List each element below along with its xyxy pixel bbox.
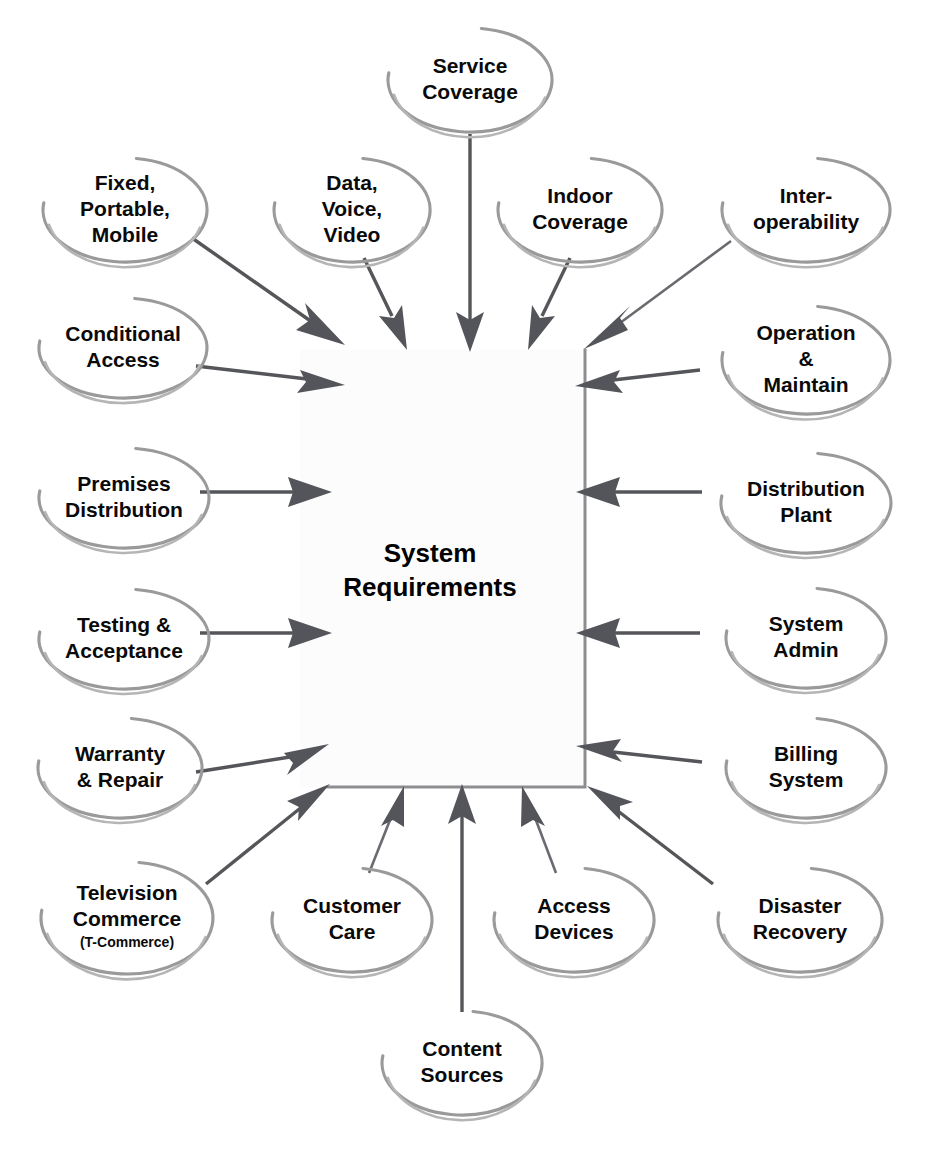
balloon-label-line: Maintain bbox=[763, 373, 848, 396]
balloon-node-conditional-access[interactable]: ConditionalAccess bbox=[39, 299, 207, 404]
connector-television-commerce bbox=[206, 784, 330, 884]
system-requirements-diagram: ServiceCoverageFixed,Portable,MobileData… bbox=[0, 0, 931, 1151]
balloon-node-customer-care[interactable]: CustomerCare bbox=[272, 869, 432, 978]
connector-data-voice-video bbox=[364, 258, 407, 350]
balloon-label-line: Inter- bbox=[780, 184, 833, 207]
balloon-node-operation-maintain[interactable]: Operation&Maintain bbox=[722, 307, 890, 420]
balloon-node-premises-distribution[interactable]: PremisesDistribution bbox=[39, 449, 209, 553]
connector-operation-maintain bbox=[575, 370, 700, 393]
balloon-node-disaster-recovery[interactable]: DisasterRecovery bbox=[718, 869, 882, 978]
balloon-label-line: Mobile bbox=[92, 223, 159, 246]
diagram-canvas: ServiceCoverageFixed,Portable,MobileData… bbox=[0, 0, 931, 1151]
balloon-sublabel: (T-Commerce) bbox=[80, 934, 174, 950]
balloon-label-line: Portable, bbox=[80, 197, 170, 220]
balloon-node-service-coverage[interactable]: ServiceCoverage bbox=[388, 29, 552, 138]
connector-indoor-coverage bbox=[528, 258, 570, 350]
connector-access-devices bbox=[521, 786, 556, 873]
connector-disaster-recovery bbox=[587, 786, 713, 884]
balloon-node-system-admin[interactable]: SystemAdmin bbox=[726, 589, 886, 693]
balloon-label-line: Indoor bbox=[547, 184, 612, 207]
balloon-label-line: Access bbox=[86, 348, 160, 371]
balloon-label-line: Television bbox=[76, 881, 177, 904]
balloon-label-line: Devices bbox=[534, 920, 613, 943]
center-label-line-2: Requirements bbox=[343, 572, 516, 602]
balloon-label-line: Billing bbox=[774, 742, 838, 765]
balloon-label-line: Disaster bbox=[759, 894, 842, 917]
connector-interoperability bbox=[584, 241, 731, 349]
balloon-label-line: Acceptance bbox=[65, 639, 183, 662]
center-region bbox=[300, 350, 586, 788]
balloon-label-line: Coverage bbox=[422, 80, 518, 103]
center-fill bbox=[300, 350, 586, 788]
balloon-label-line: Recovery bbox=[753, 920, 848, 943]
connector-system-admin bbox=[576, 618, 700, 648]
balloon-node-access-devices[interactable]: AccessDevices bbox=[494, 869, 654, 978]
balloon-node-fixed-portable-mobile[interactable]: Fixed,Portable,Mobile bbox=[43, 159, 207, 268]
balloon-label-line: operability bbox=[753, 210, 860, 233]
balloon-label-line: Admin bbox=[773, 638, 838, 661]
balloon-label-line: Operation bbox=[756, 321, 855, 344]
connector-billing-system bbox=[576, 739, 702, 762]
balloon-node-warranty-repair[interactable]: Warranty& Repair bbox=[38, 719, 202, 824]
balloon-node-television-commerce[interactable]: TelevisionCommerce(T-Commerce) bbox=[41, 863, 213, 980]
balloon-label-line: Plant bbox=[780, 503, 831, 526]
balloon-label-line: Commerce bbox=[73, 907, 182, 930]
balloon-label-line: Content bbox=[422, 1037, 501, 1060]
balloon-label-line: Conditional bbox=[65, 322, 180, 345]
balloon-label-line: Access bbox=[537, 894, 611, 917]
balloon-label-line: Distribution bbox=[65, 498, 183, 521]
connector-content-sources bbox=[448, 784, 476, 1012]
balloon-node-distribution-plant[interactable]: DistributionPlant bbox=[721, 454, 891, 558]
balloon-label-line: Service bbox=[433, 54, 508, 77]
balloon-node-data-voice-video[interactable]: Data,Voice,Video bbox=[274, 159, 430, 268]
connector-service-coverage bbox=[456, 134, 484, 352]
balloon-label-line: Sources bbox=[421, 1063, 504, 1086]
balloon-label-line: Distribution bbox=[747, 477, 865, 500]
balloon-node-interoperability[interactable]: Inter-operability bbox=[722, 159, 890, 268]
balloon-label-line: Video bbox=[324, 223, 381, 246]
balloon-label-line: Data, bbox=[326, 171, 377, 194]
balloon-label-line: Premises bbox=[77, 472, 170, 495]
balloon-label-line: & Repair bbox=[77, 768, 163, 791]
balloon-node-testing-acceptance[interactable]: Testing &Acceptance bbox=[39, 590, 209, 694]
connector-distribution-plant bbox=[576, 477, 702, 507]
balloon-label-line: Fixed, bbox=[95, 171, 156, 194]
balloon-label-line: Coverage bbox=[532, 210, 628, 233]
balloon-node-indoor-coverage[interactable]: IndoorCoverage bbox=[498, 159, 662, 268]
connector-customer-care bbox=[369, 786, 404, 873]
balloon-label-line: Customer bbox=[303, 894, 401, 917]
balloon-label-line: Testing & bbox=[77, 613, 171, 636]
connector-fixed-portable-mobile bbox=[192, 238, 345, 345]
balloon-node-billing-system[interactable]: BillingSystem bbox=[726, 719, 886, 823]
balloon-label-line: & bbox=[798, 347, 813, 370]
balloon-label-line: Voice, bbox=[322, 197, 382, 220]
balloon-node-content-sources[interactable]: ContentSources bbox=[382, 1012, 542, 1121]
balloon-label-line: Care bbox=[329, 920, 376, 943]
balloon-label-line: System bbox=[769, 612, 844, 635]
center-label-line-1: System bbox=[384, 538, 477, 568]
balloon-label-line: System bbox=[769, 768, 844, 791]
balloon-label-line: Warranty bbox=[75, 742, 166, 765]
